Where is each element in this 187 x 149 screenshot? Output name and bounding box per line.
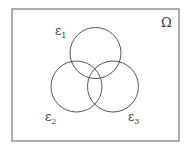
set-circle-1 — [70, 28, 121, 79]
set-label-3: ε3 — [128, 110, 139, 126]
universe-rectangle — [12, 9, 179, 141]
venn-diagram: Ω ε1ε2ε3 — [0, 0, 187, 149]
universe-label: Ω — [161, 15, 172, 30]
set-label-1: ε1 — [55, 24, 66, 40]
set-label-2: ε2 — [45, 110, 56, 126]
set-circle-3 — [88, 61, 139, 112]
